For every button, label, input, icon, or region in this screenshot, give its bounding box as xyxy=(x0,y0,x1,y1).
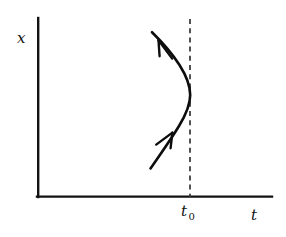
upper-arrowhead-barb-short xyxy=(159,40,160,56)
t0-tick-label-subscript: 0 xyxy=(189,211,195,222)
y-axis-label: x xyxy=(17,29,26,47)
figure-canvas: x t t 0 xyxy=(0,0,286,237)
t0-tick-label-main: t xyxy=(181,202,188,220)
x-axis-label: t xyxy=(251,206,258,224)
xt-diagram: x t t 0 xyxy=(0,0,286,237)
